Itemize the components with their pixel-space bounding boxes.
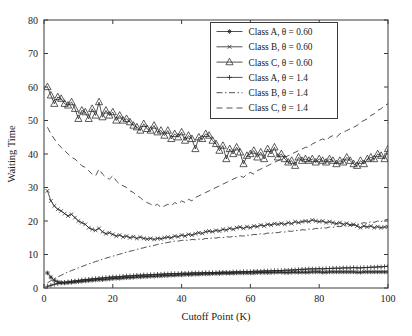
legend-item-label-3[interactable]: Class C, θ = 0.60 bbox=[249, 58, 313, 68]
chart-figure: 020406080100 01020304050607080 Cutoff Po… bbox=[0, 0, 412, 336]
y-tick-label: 30 bbox=[28, 182, 38, 193]
y-tick-label: 40 bbox=[28, 149, 38, 160]
legend-item-label-2[interactable]: Class B, θ = 0.60 bbox=[249, 42, 313, 52]
y-tick-label: 50 bbox=[28, 115, 38, 126]
legend-item-label-5[interactable]: Class B, θ = 1.4 bbox=[249, 88, 309, 98]
y-tick-label: 20 bbox=[28, 216, 38, 227]
x-tick-label: 0 bbox=[42, 293, 47, 304]
chart-background bbox=[0, 0, 412, 336]
star-marker bbox=[45, 271, 50, 276]
legend-item-label-6[interactable]: Class C, θ = 1.4 bbox=[249, 103, 309, 113]
y-tick-label: 80 bbox=[28, 15, 38, 26]
legend-item-label-4[interactable]: Class A, θ = 1.4 bbox=[249, 73, 309, 83]
y-tick-label: 0 bbox=[33, 283, 38, 294]
waiting-time-line-chart: 020406080100 01020304050607080 Cutoff Po… bbox=[0, 0, 412, 336]
x-tick-label: 100 bbox=[381, 293, 396, 304]
x-tick-label: 20 bbox=[108, 293, 118, 304]
y-axis-label: Waiting Time bbox=[6, 125, 17, 183]
y-tick-label: 60 bbox=[28, 82, 38, 93]
x-axis-label: Cutoff Point (K) bbox=[181, 311, 251, 323]
y-tick-label: 70 bbox=[28, 48, 38, 59]
x-tick-label: 60 bbox=[245, 293, 255, 304]
y-tick-label: 10 bbox=[28, 249, 38, 260]
chart-legend[interactable]: Class A, θ = 0.60Class B, θ = 0.60Class … bbox=[211, 23, 338, 119]
x-tick-label: 40 bbox=[177, 293, 187, 304]
legend-item-label-1[interactable]: Class A, θ = 0.60 bbox=[249, 27, 313, 37]
star-marker bbox=[227, 29, 232, 34]
x-tick-label: 80 bbox=[314, 293, 324, 304]
